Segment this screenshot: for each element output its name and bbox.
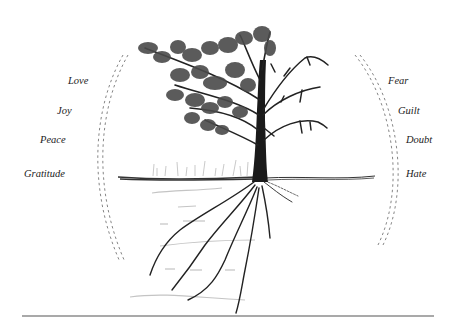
left-dashed-arc: [98, 55, 128, 262]
label-doubt: Doubt: [406, 135, 432, 146]
grass: [153, 160, 248, 176]
water-lines: [130, 188, 255, 300]
roots: [150, 181, 298, 313]
label-joy: Joy: [57, 106, 72, 117]
ground-line: [118, 176, 375, 180]
label-love: Love: [68, 76, 88, 87]
label-peace: Peace: [40, 135, 66, 146]
bare-branches: [263, 57, 328, 140]
label-guilt: Guilt: [398, 106, 420, 117]
foliage: [138, 26, 276, 135]
label-hate: Hate: [406, 169, 426, 180]
label-fear: Fear: [388, 76, 408, 87]
tree-illustration: [0, 0, 457, 333]
label-gratitude: Gratitude: [24, 169, 65, 180]
